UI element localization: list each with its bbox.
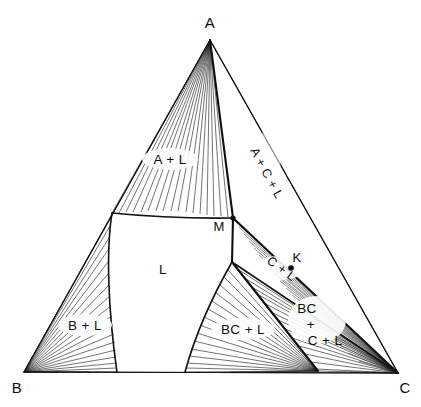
- boundary-m-to-vertex: [232, 218, 233, 262]
- region-label-liquid: L: [159, 262, 167, 277]
- point-marker-m: [230, 215, 235, 220]
- region-label-bc-line2: +: [307, 317, 315, 332]
- point-label-m: M: [213, 219, 224, 234]
- point-label-k: K: [292, 250, 301, 265]
- region-label-a-plus-l: A + L: [153, 152, 186, 167]
- region-label-bc-plus-l: BC + L: [221, 322, 265, 337]
- corner-label-b: B: [12, 379, 22, 396]
- region-label-bc-line1: BC: [297, 301, 317, 316]
- corner-label-a: A: [205, 14, 215, 31]
- corner-label-c: C: [399, 379, 410, 396]
- ternary-phase-diagram: A B C M K A + L A + C + L L B + L BC + L…: [0, 0, 421, 407]
- region-label-b-plus-l: B + L: [68, 318, 102, 333]
- diagram-canvas: A B C M K A + L A + C + L L B + L BC + L…: [0, 0, 421, 407]
- region-label-bc-line3: C + L: [308, 333, 343, 348]
